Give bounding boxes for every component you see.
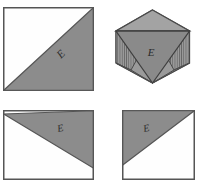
side-view: E: [122, 110, 195, 180]
technical-drawing-sheet: E: [0, 0, 199, 189]
front-view: E: [3, 7, 94, 91]
isometric-view: E: [113, 8, 193, 86]
isometric-view-label: E: [147, 46, 155, 58]
top-view: E: [3, 110, 94, 180]
isometric-view-canvas: E: [113, 8, 193, 86]
front-view-canvas: E: [3, 7, 94, 91]
top-view-canvas: E: [3, 110, 94, 180]
side-view-canvas: E: [122, 110, 195, 180]
iso-top-face: [116, 10, 190, 31]
